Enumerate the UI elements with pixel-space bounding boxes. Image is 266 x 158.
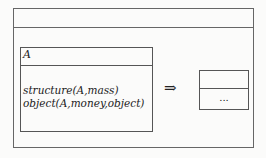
source-class-attributes: structure(A,mass) object(A,money,object) (23, 84, 144, 110)
target-class-body: ... (199, 92, 249, 103)
source-class-name: A (23, 48, 31, 61)
target-class-box (199, 70, 249, 110)
source-class-divider (20, 65, 153, 66)
implies-arrow-icon: ⇒ (164, 79, 177, 97)
target-class-divider (199, 88, 249, 89)
attribute-structure: structure(A,mass) (23, 84, 144, 97)
attribute-object: object(A,money,object) (23, 97, 144, 110)
outer-frame-header-divider (13, 27, 254, 28)
